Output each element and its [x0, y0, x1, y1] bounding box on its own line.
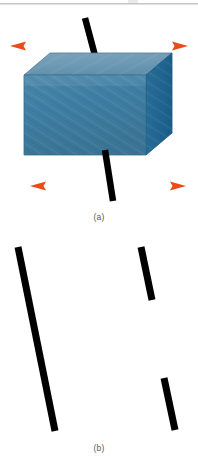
bottom-right-arrow [118, 181, 186, 190]
top-right-arrow [110, 41, 188, 50]
block-side-face [146, 53, 172, 155]
right-upper-segment [141, 247, 152, 300]
figure-canvas [0, 0, 198, 470]
panel-b-graphics [18, 247, 175, 431]
block-front-face [24, 75, 146, 155]
block-3d [24, 53, 172, 155]
top-rule-artifact [128, 0, 138, 3]
block-top-face [24, 53, 172, 75]
panel-a-graphics [10, 18, 188, 201]
top-left-arrow [10, 41, 88, 50]
bottom-left-arrow [30, 181, 100, 190]
physics-figure: (a) (b) [0, 0, 198, 470]
top-divider-rule [0, 3, 198, 5]
left-long-segment [18, 247, 55, 431]
panel-a-caption: (a) [0, 212, 198, 222]
rod-lower [105, 150, 113, 201]
right-lower-segment [164, 378, 175, 430]
rod-upper [85, 18, 101, 78]
panel-b-caption: (b) [0, 443, 198, 453]
